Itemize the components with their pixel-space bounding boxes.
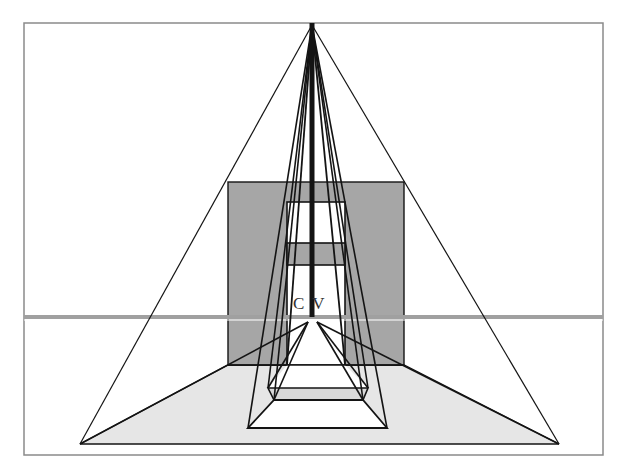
perspective-diagram — [0, 0, 620, 471]
step-band — [268, 388, 368, 400]
cv-label: C V — [293, 294, 327, 314]
